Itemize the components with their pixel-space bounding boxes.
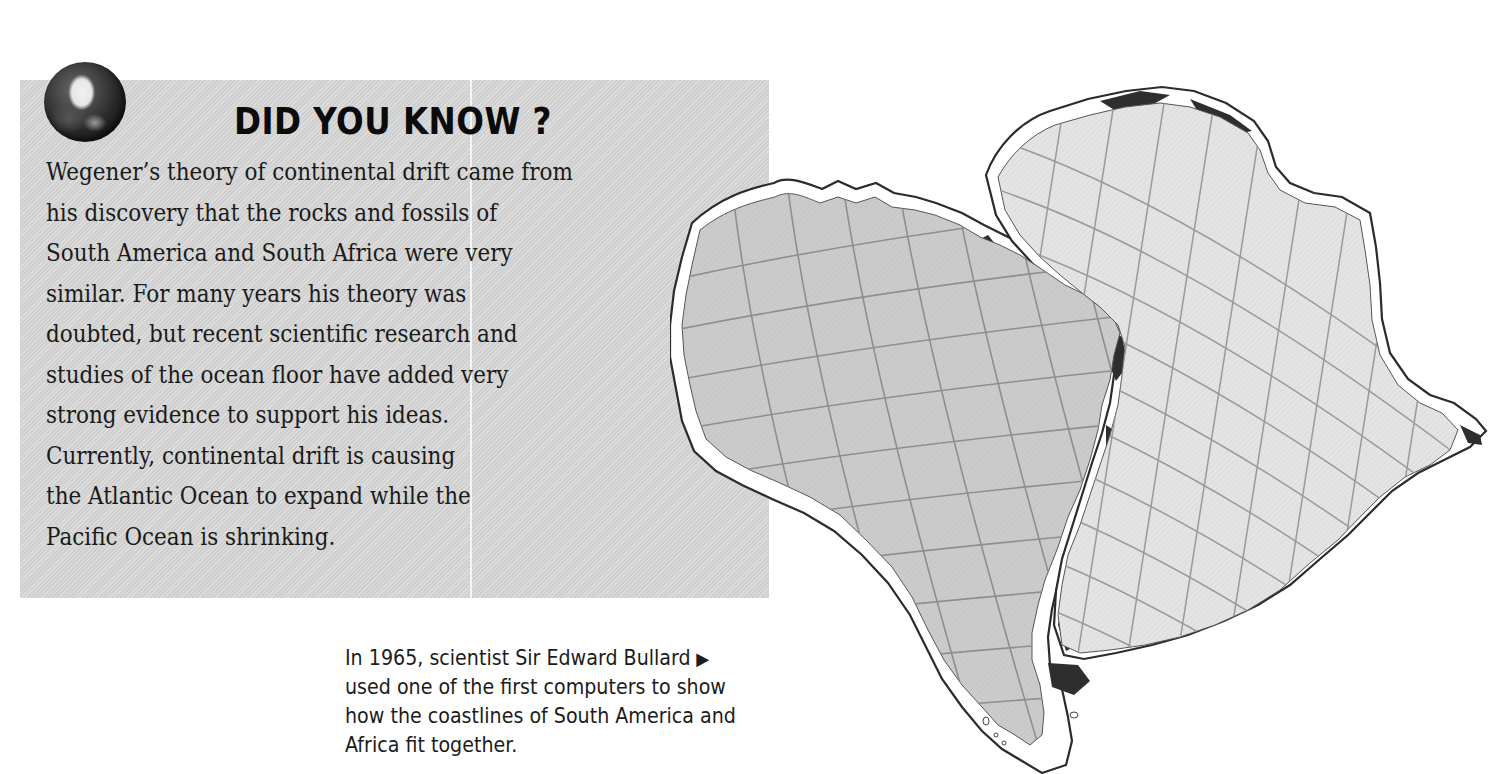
globe-icon (44, 62, 126, 142)
continental-fit-map (670, 85, 1489, 774)
body-line: strong evidence to support his ideas. (46, 395, 665, 436)
body-line: his discovery that the rocks and fossils… (46, 193, 665, 234)
caption-line-text: In 1965, scientist Sir Edward Bullard (345, 646, 691, 670)
body-line: doubted, but recent scientific research … (46, 314, 665, 355)
box-title: DID YOU KNOW ? (234, 100, 552, 144)
body-line: the Atlantic Ocean to expand while the (46, 476, 665, 517)
box-body-text: Wegener’s theory of continental drift ca… (46, 152, 766, 557)
body-line: similar. For many years his theory was (46, 274, 665, 315)
continental-fit-map-graphic (670, 85, 1489, 774)
body-line: Wegener’s theory of continental drift ca… (46, 152, 665, 193)
body-line: Pacific Ocean is shrinking. (46, 517, 665, 558)
body-line: studies of the ocean floor have added ve… (46, 355, 665, 396)
body-line: Currently, continental drift is causing (46, 436, 665, 477)
body-line: South America and South Africa were very (46, 233, 665, 274)
